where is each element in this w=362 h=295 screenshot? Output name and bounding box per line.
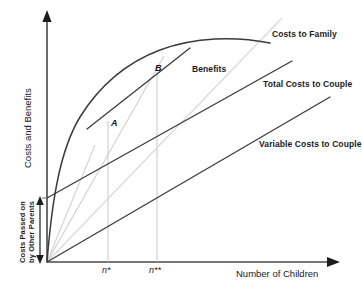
variable-costs-line <box>47 97 330 262</box>
tick-label-n-star: n* <box>102 265 111 275</box>
costs-passed-on-label-line2: by Other Parents <box>27 201 36 263</box>
ray-extended <box>47 18 282 262</box>
y-axis-label: Costs and Benefits <box>22 88 33 168</box>
tick-label-n-double-star: n** <box>149 265 161 275</box>
point-label-b: B <box>155 63 162 73</box>
x-axis-arrow-icon <box>327 257 340 267</box>
total-costs-to-couple-label: Total Costs to Couple <box>263 79 352 89</box>
variable-costs-to-couple-label: Variable Costs to Couple <box>259 139 362 149</box>
point-label-a: A <box>111 118 118 128</box>
total-costs-line <box>47 61 292 198</box>
costs-to-family-label: Costs to Family <box>272 29 337 39</box>
ray-group <box>47 18 282 262</box>
costs-passed-on-label-line1: Costs Passed on <box>18 201 27 263</box>
dropline-group <box>108 72 157 262</box>
y-axis-arrow-icon <box>42 10 51 22</box>
costs-passed-on-arrow-icon <box>36 196 44 264</box>
benefits-label: Benefits <box>192 64 226 74</box>
x-axis-label: Number of Children <box>236 268 318 279</box>
